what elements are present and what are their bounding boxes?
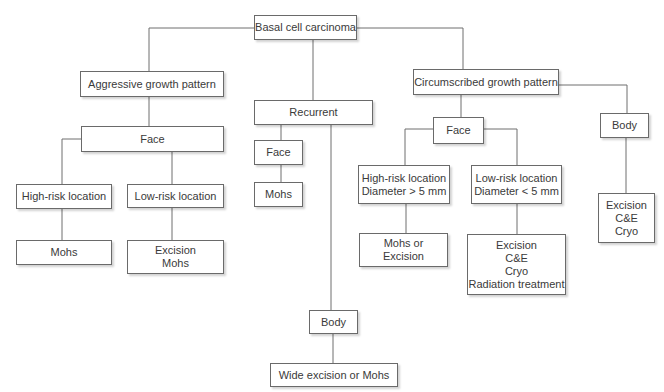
node-label: Cryo xyxy=(505,265,528,278)
edge-root-circumscribed xyxy=(357,28,463,69)
node-label: Basal cell carcinoma xyxy=(255,21,356,34)
node-recurrent: Recurrent xyxy=(254,100,373,125)
node-circumscribed-low-risk-treatment: Excision C&E Cryo Radiation treatment xyxy=(467,234,566,295)
node-label: C&E xyxy=(505,252,528,265)
node-label: Diameter < 5 mm xyxy=(474,185,559,198)
node-label: Circumscribed growth pattern xyxy=(414,76,558,89)
node-label: Aggressive growth pattern xyxy=(88,78,216,91)
node-recurrent-body: Body xyxy=(309,310,358,334)
node-label: Mohs xyxy=(265,188,292,201)
node-aggressive-high-risk: High-risk location xyxy=(16,184,112,209)
node-label: Wide excision or Mohs xyxy=(279,369,390,382)
node-label: Cryo xyxy=(615,225,638,238)
edge-root-aggressive xyxy=(149,28,254,71)
node-aggressive-low-risk: Low-risk location xyxy=(127,184,224,208)
node-label: Radiation treatment xyxy=(469,278,565,291)
node-label: Low-risk location xyxy=(135,190,217,203)
node-label: Excision xyxy=(606,199,647,212)
node-label: Excision xyxy=(383,250,424,263)
edge-circface-low xyxy=(484,129,517,165)
node-recurrent-face: Face xyxy=(254,140,303,165)
node-label: Excision xyxy=(496,239,537,252)
node-label: Face xyxy=(266,146,290,159)
edge-circ-body xyxy=(559,85,627,113)
edge-circface-high xyxy=(405,129,433,165)
node-label: Diameter > 5 mm xyxy=(362,185,447,198)
node-label: Excision xyxy=(155,244,196,257)
node-label: High-risk location xyxy=(22,190,106,203)
node-aggressive-face: Face xyxy=(81,126,224,152)
node-label: C&E xyxy=(615,212,638,225)
node-label: High-risk location xyxy=(362,172,446,185)
node-aggressive-low-risk-treatment: Excision Mohs xyxy=(127,240,224,274)
node-label: Mohs or xyxy=(384,237,424,250)
node-recurrent-body-treatment: Wide excision or Mohs xyxy=(270,363,398,387)
node-circumscribed-growth-pattern: Circumscribed growth pattern xyxy=(413,69,559,95)
node-circumscribed-high-risk-treatment: Mohs or Excision xyxy=(359,233,448,267)
edge-aggface-high xyxy=(62,139,81,184)
node-circumscribed-face: Face xyxy=(433,117,484,144)
node-basal-cell-carcinoma: Basal cell carcinoma xyxy=(254,15,357,40)
node-label: Face xyxy=(446,124,470,137)
node-aggressive-high-risk-mohs: Mohs xyxy=(16,240,112,265)
node-circumscribed-low-risk: Low-risk location Diameter < 5 mm xyxy=(471,165,562,204)
node-label: Mohs xyxy=(51,246,78,259)
node-aggressive-growth-pattern: Aggressive growth pattern xyxy=(80,71,224,97)
node-circumscribed-body-treatment: Excision C&E Cryo xyxy=(598,193,655,243)
node-recurrent-face-mohs: Mohs xyxy=(254,182,303,207)
node-circumscribed-high-risk: High-risk location Diameter > 5 mm xyxy=(358,165,450,204)
node-label: Face xyxy=(140,133,164,146)
node-label: Body xyxy=(612,119,637,132)
node-label: Low-risk location xyxy=(476,172,558,185)
node-label: Body xyxy=(321,316,346,329)
node-label: Recurrent xyxy=(289,106,337,119)
node-circumscribed-body: Body xyxy=(600,113,649,138)
node-label: Mohs xyxy=(162,257,189,270)
